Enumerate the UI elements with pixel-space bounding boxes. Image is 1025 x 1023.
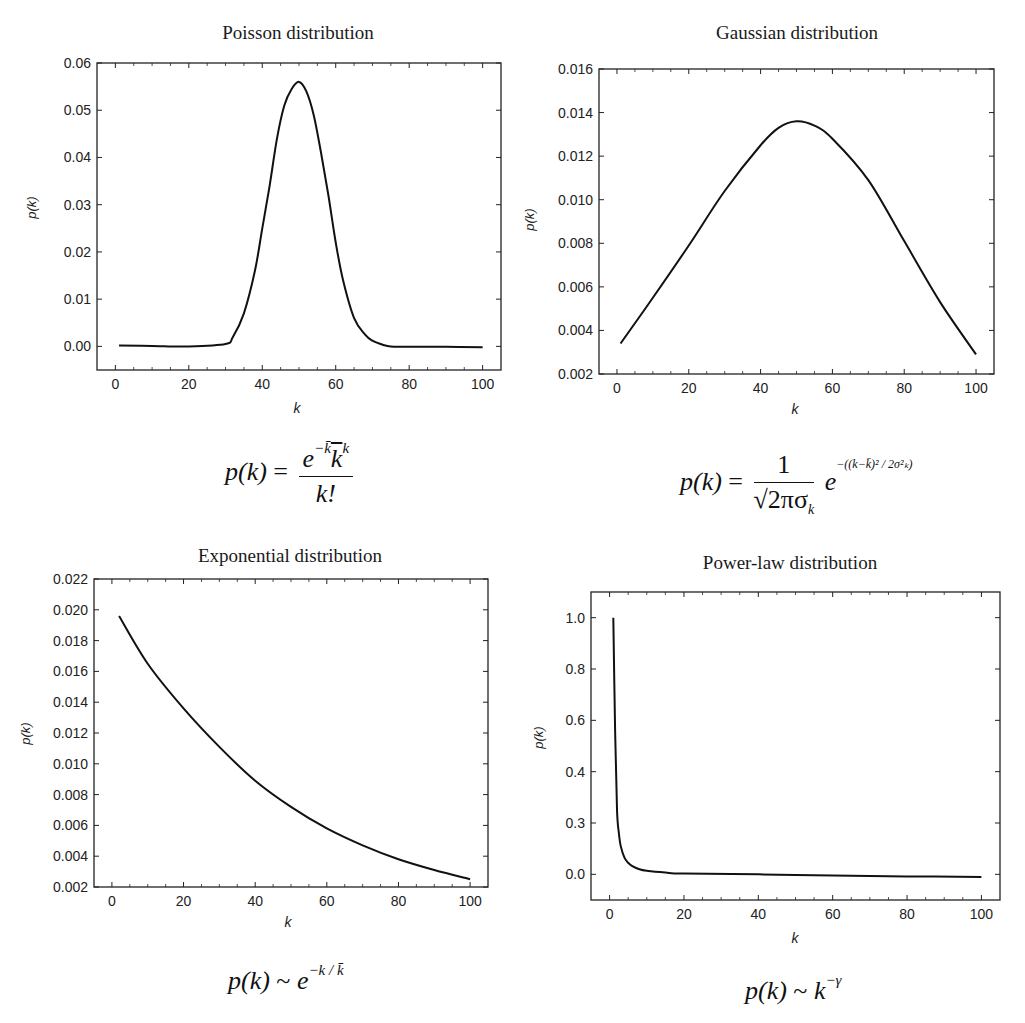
poisson-plot (97, 63, 501, 370)
x-tick-label: 80 (899, 906, 915, 922)
gaussian-plot (599, 69, 994, 374)
x-tick-label: 20 (176, 893, 192, 909)
y-tick-label: 0.010 (533, 192, 593, 208)
poisson-formula: p(k) = e−k̄kk k! (225, 440, 357, 509)
x-tick-label: 60 (319, 893, 335, 909)
x-tick-label: 20 (681, 380, 697, 396)
x-tick-label: 0 (613, 380, 621, 396)
y-tick-label: 0.002 (28, 879, 88, 895)
x-tick-label: 60 (328, 376, 344, 392)
powerlaw-ylabel: p(k) (531, 726, 546, 748)
x-tick-label: 40 (247, 893, 263, 909)
y-tick-label: 0.010 (28, 756, 88, 772)
y-tick-label: 0.012 (533, 148, 593, 164)
series-line (119, 616, 470, 879)
gaussian-formula: p(k) = 1 √2πσk e−((k−k̄)² / 2σ²ₖ) (680, 450, 913, 518)
y-tick-label: 0.05 (31, 102, 91, 118)
y-tick-label: 0.008 (28, 787, 88, 803)
poisson-title: Poisson distribution (222, 22, 374, 44)
gaussian-title: Gaussian distribution (716, 22, 878, 44)
y-tick-label: 0.014 (533, 105, 593, 121)
x-tick-label: 0 (111, 376, 119, 392)
x-tick-label: 80 (391, 893, 407, 909)
x-tick-label: 40 (254, 376, 270, 392)
x-tick-label: 40 (753, 380, 769, 396)
plot-frame (97, 63, 501, 370)
y-tick-label: 0.03 (31, 197, 91, 213)
exponential-plot (94, 579, 488, 887)
plot-frame (599, 69, 994, 374)
x-tick-label: 0 (606, 906, 614, 922)
y-tick-label: 0.06 (31, 55, 91, 71)
x-tick-label: 80 (896, 380, 912, 396)
x-tick-label: 20 (181, 376, 197, 392)
x-tick-label: 100 (458, 893, 481, 909)
y-tick-label: 0.004 (533, 322, 593, 338)
y-tick-label: 0.006 (533, 279, 593, 295)
exponential-xlabel: k (285, 914, 292, 930)
x-tick-label: 0 (108, 893, 116, 909)
series-line (613, 618, 981, 877)
y-tick-label: 1.0 (525, 610, 585, 626)
exponential-title: Exponential distribution (198, 545, 382, 567)
x-tick-label: 60 (825, 906, 841, 922)
powerlaw-xlabel: k (792, 930, 799, 946)
y-tick-label: 0.016 (28, 663, 88, 679)
x-tick-label: 100 (970, 906, 993, 922)
y-tick-label: 0.8 (525, 661, 585, 677)
y-tick-label: 0.022 (28, 571, 88, 587)
powerlaw-formula: p(k) ~ k−γ (745, 972, 842, 1006)
powerlaw-plot (591, 592, 1000, 900)
y-tick-label: 0.012 (28, 725, 88, 741)
y-tick-label: 0.01 (31, 291, 91, 307)
gaussian-xlabel: k (792, 401, 799, 417)
series-line (119, 82, 483, 347)
y-tick-label: 0.014 (28, 694, 88, 710)
x-tick-label: 100 (964, 380, 987, 396)
y-tick-label: 0.008 (533, 235, 593, 251)
y-tick-label: 0.4 (525, 764, 585, 780)
plot-frame (94, 579, 488, 887)
exponential-formula: p(k) ~ e−k / k̄ (228, 962, 344, 996)
gaussian-ylabel: p(k) (522, 208, 537, 230)
x-tick-label: 20 (676, 906, 692, 922)
y-tick-label: 0.002 (533, 366, 593, 382)
powerlaw-title: Power-law distribution (703, 552, 877, 574)
y-tick-label: 0.00 (31, 338, 91, 354)
y-tick-label: 0.0 (525, 866, 585, 882)
y-tick-label: 0.016 (533, 61, 593, 77)
y-tick-label: 0.3 (525, 815, 585, 831)
y-tick-label: 0.020 (28, 602, 88, 618)
x-tick-label: 60 (825, 380, 841, 396)
x-tick-label: 100 (471, 376, 494, 392)
y-tick-label: 0.004 (28, 848, 88, 864)
plot-frame (591, 592, 1000, 900)
y-tick-label: 0.018 (28, 633, 88, 649)
y-tick-label: 0.02 (31, 244, 91, 260)
y-tick-label: 0.6 (525, 712, 585, 728)
series-line (621, 121, 976, 354)
y-tick-label: 0.04 (31, 149, 91, 165)
x-tick-label: 80 (401, 376, 417, 392)
y-tick-label: 0.006 (28, 817, 88, 833)
poisson-xlabel: k (294, 400, 301, 416)
x-tick-label: 40 (751, 906, 767, 922)
